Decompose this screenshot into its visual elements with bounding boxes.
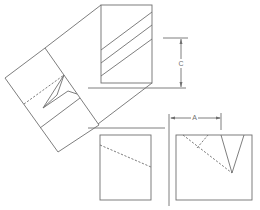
technical-drawing: C A [0, 0, 260, 210]
dimension-c-label: C [178, 60, 183, 67]
side-view-hidden-line-2 [197, 135, 208, 148]
side-view-v-notch [221, 135, 244, 173]
projection-line-1 [45, 5, 101, 48]
front-view-hidden-line [100, 145, 151, 167]
auxiliary-view [5, 48, 99, 152]
dimension-a-label: A [192, 114, 197, 121]
arrow-right-icon [216, 117, 221, 120]
projection-line-2 [98, 83, 152, 124]
arrow-up-icon [180, 39, 183, 44]
auxiliary-hidden-line [24, 75, 64, 104]
front-view [100, 135, 151, 200]
side-view [176, 135, 252, 200]
dimension-c: C [163, 38, 188, 87]
dimension-a: A [170, 113, 221, 130]
arrow-down-icon [180, 82, 183, 87]
arrow-left-icon [170, 117, 175, 120]
side-view-hidden-line [183, 135, 232, 173]
front-view-outline [100, 135, 151, 200]
top-view [101, 5, 152, 83]
